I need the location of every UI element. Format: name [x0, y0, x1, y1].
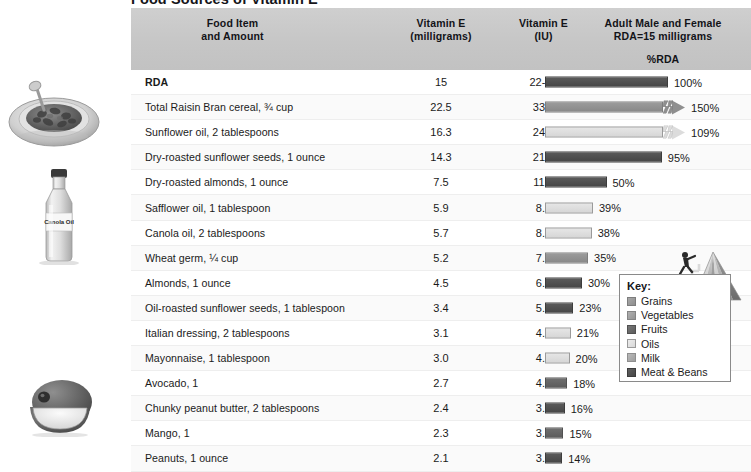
bar-fill — [545, 177, 607, 188]
cell-rda-bar: 39% — [545, 201, 751, 214]
bar-percent-label: 109% — [691, 126, 719, 138]
legend-swatch-fruits — [627, 325, 636, 334]
table-row: Canola oil, 2 tablespoons5.78.538% — [131, 221, 751, 246]
bar-percent-label: 150% — [691, 101, 719, 113]
bar-fill — [545, 227, 592, 238]
legend-label: Oils — [641, 338, 659, 350]
legend-label: Grains — [641, 295, 672, 307]
bar-percent-label: 38% — [598, 227, 620, 239]
cell-vitamin-e-mg: 15 — [386, 76, 496, 88]
table-row: Dry-roasted sunflower seeds, 1 ounce14.3… — [131, 145, 751, 170]
bar-percent-label: 14% — [568, 452, 590, 464]
legend-key-box: Key: GrainsVegetablesFruitsOilsMilkMeat … — [619, 274, 731, 382]
bar-graphic — [545, 403, 565, 414]
cell-rda-bar: 14% — [545, 452, 751, 465]
bar-graphic — [545, 102, 685, 113]
cell-vitamin-e-mg: 4.5 — [386, 277, 496, 289]
svg-text:Canola Oil: Canola Oil — [44, 219, 74, 225]
legend-label: Meat & Beans — [641, 366, 708, 378]
bar-fill — [545, 353, 570, 364]
cell-food-item: Italian dressing, 2 tablespoons — [145, 327, 290, 339]
bar-fill — [545, 277, 582, 288]
legend-swatch-grains — [627, 297, 636, 306]
cell-vitamin-e-mg: 2.1 — [386, 452, 496, 464]
bar-percent-label: 15% — [569, 427, 591, 439]
bar-fill — [545, 453, 562, 464]
bar-fill — [545, 403, 565, 414]
bar-fill — [545, 127, 663, 138]
legend-item: Milk — [627, 351, 730, 365]
cell-food-item: Safflower oil, 1 tablespoon — [145, 202, 270, 214]
cell-food-item: Mayonnaise, 1 tablespoon — [145, 352, 270, 364]
bar-percent-label: 95% — [668, 151, 690, 163]
bar-fill — [545, 152, 662, 163]
cell-food-item: Dry-roasted almonds, 1 ounce — [145, 176, 288, 188]
bar-graphic — [545, 227, 592, 238]
cell-rda-bar: 150% — [545, 101, 751, 114]
legend-swatch-vegetables — [627, 311, 636, 320]
legend-item: Oils — [627, 337, 730, 351]
page-title-sub: Vitamin E — [251, 0, 318, 7]
avocado-image — [22, 375, 100, 437]
bar-graphic — [545, 378, 567, 389]
cell-vitamin-e-mg: 16.3 — [386, 126, 496, 138]
cell-food-item: Avocado, 1 — [145, 377, 198, 389]
bar-graphic — [545, 127, 685, 138]
bar-arrowhead — [672, 100, 685, 114]
cell-food-item: Chunky peanut butter, 2 tablespoons — [145, 402, 319, 414]
cell-rda-bar: 95% — [545, 151, 751, 164]
cell-rda-bar: 100% — [545, 76, 751, 89]
cell-vitamin-e-mg: 3.1 — [386, 327, 496, 339]
bar-fill — [545, 302, 573, 313]
bar-graphic — [545, 428, 563, 439]
column-header-vitamin-e-mg: Vitamin E (milligrams) — [386, 17, 496, 42]
bar-percent-label: 21% — [577, 327, 599, 339]
cell-vitamin-e-mg: 3.4 — [386, 302, 496, 314]
bar-graphic — [545, 252, 588, 263]
cell-rda-bar: 16% — [545, 402, 751, 415]
table-header-row: Food Item and Amount Vitamin E (milligra… — [131, 8, 751, 70]
cell-rda-bar: 15% — [545, 427, 751, 440]
bar-percent-label: 50% — [613, 176, 635, 188]
column-header-rda: Adult Male and Female RDA=15 milligrams — [578, 17, 748, 42]
cereal-bowl-image — [6, 80, 102, 148]
cell-rda-bar: 50% — [545, 176, 751, 189]
cell-vitamin-e-mg: 3.0 — [386, 352, 496, 364]
bar-fill — [545, 378, 567, 389]
bar-fill — [545, 252, 588, 263]
cell-food-item: Canola oil, 2 tablespoons — [145, 227, 265, 239]
cell-vitamin-e-mg: 2.4 — [386, 402, 496, 414]
cell-food-item: Total Raisin Bran cereal, ¾ cup — [145, 101, 293, 113]
bar-graphic — [545, 177, 607, 188]
legend-item: Meat & Beans — [627, 365, 730, 379]
bar-graphic — [545, 202, 593, 213]
canola-oil-bottle-image: Canola Oil — [28, 165, 90, 265]
cell-vitamin-e-mg: 22.5 — [386, 101, 496, 113]
cell-rda-bar: 38% — [545, 226, 751, 239]
legend-item: Fruits — [627, 322, 730, 336]
legend-label: Milk — [641, 352, 660, 364]
column-header-food-item: Food Item and Amount — [145, 17, 320, 42]
cell-food-item: Almonds, 1 ounce — [145, 277, 231, 289]
table-row: Dry-roasted almonds, 1 ounce7.511.150% — [131, 170, 751, 195]
legend-label: Fruits — [641, 323, 667, 335]
bar-fill — [545, 102, 663, 113]
legend-label: Vegetables — [641, 309, 693, 321]
legend-swatch-milk — [627, 353, 636, 362]
bar-graphic — [545, 353, 570, 364]
cell-vitamin-e-mg: 7.5 — [386, 176, 496, 188]
bar-graphic — [545, 302, 573, 313]
bar-arrowhead — [672, 125, 685, 139]
cell-vitamin-e-mg: 5.7 — [386, 227, 496, 239]
legend-swatch-meat — [627, 368, 636, 377]
legend-items: GrainsVegetablesFruitsOilsMilkMeat & Bea… — [627, 294, 730, 379]
bar-graphic — [545, 152, 662, 163]
column-header-vitamin-e-iu: Vitamin E (IU) — [501, 17, 586, 42]
bar-percent-label: 39% — [599, 202, 621, 214]
cell-food-item: Sunflower oil, 2 tablespoons — [145, 126, 279, 138]
legend-title: Key: — [627, 280, 730, 292]
cell-vitamin-e-mg: 5.9 — [386, 202, 496, 214]
table-row: Sunflower oil, 2 tablespoons16.324.3109% — [131, 120, 751, 145]
table-row: Peanuts, 1 ounce2.13.114% — [131, 446, 751, 471]
table-row: Safflower oil, 1 tablespoon5.98.739% — [131, 195, 751, 220]
